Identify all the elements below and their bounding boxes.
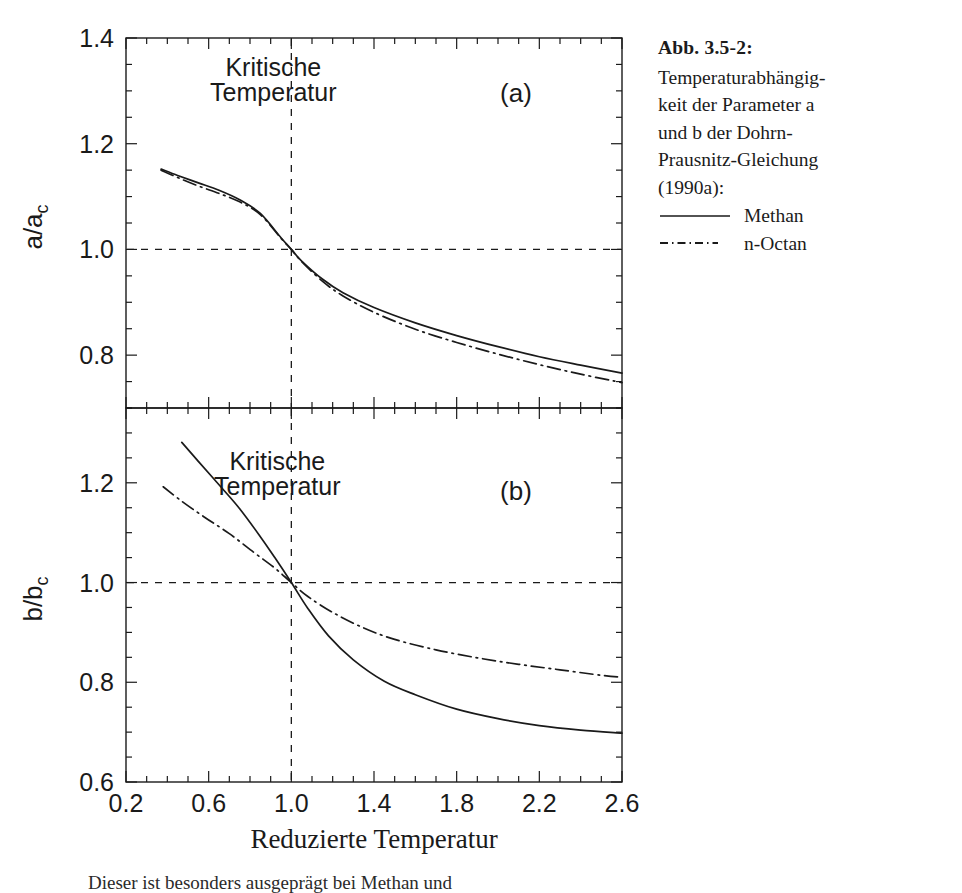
- figure-plot-area: 0.81.01.21.4a/acKritischeTemperatur(a)0.…: [0, 0, 640, 860]
- panel-label-a: (a): [500, 78, 532, 108]
- y-tick-label-a: 0.8: [79, 341, 114, 369]
- annotation-kritische-a: Kritische: [225, 53, 321, 81]
- y-tick-label-b: 0.8: [79, 668, 114, 696]
- caption-line: und b der Dohrn-: [658, 119, 950, 147]
- caption-title: Abb. 3.5-2:: [658, 34, 950, 62]
- annotation-temperatur-a: Temperatur: [210, 78, 336, 106]
- x-axis-label: Reduzierte Temperatur: [250, 824, 497, 854]
- x-tick-label: 2.6: [605, 789, 640, 817]
- caption-line: (1990a):: [658, 174, 950, 202]
- y-tick-label-a: 1.0: [79, 235, 114, 263]
- chart-legend: Methan n-Octan: [658, 202, 950, 257]
- legend-item-n-octan: n-Octan: [658, 230, 950, 258]
- series-curve-n-octan-a: [161, 170, 622, 382]
- legend-label-n-octan: n-Octan: [744, 230, 807, 258]
- caption-line: Prausnitz-Gleichung: [658, 146, 950, 174]
- dash-dot-line-icon: [658, 236, 732, 250]
- x-tick-label: 1.0: [274, 789, 309, 817]
- y-axis-label-b: b/bc: [18, 576, 52, 621]
- x-tick-label: 0.2: [109, 789, 144, 817]
- y-tick-label-b: 1.0: [79, 569, 114, 597]
- panel-label-b: (b): [500, 476, 532, 506]
- annotation-temperatur-b: Temperatur: [214, 472, 340, 500]
- y-tick-label-b: 1.2: [79, 469, 114, 497]
- legend-item-methan: Methan: [658, 202, 950, 230]
- y-tick-label-a: 1.4: [79, 24, 114, 52]
- svg-text:b/bc: b/bc: [18, 576, 52, 621]
- chart-svg: 0.81.01.21.4a/acKritischeTemperatur(a)0.…: [0, 0, 640, 860]
- x-tick-label: 1.4: [357, 789, 392, 817]
- caption-line: Temperaturabhängig-: [658, 64, 950, 92]
- plot-frame-a: [126, 38, 622, 408]
- caption-body: Temperaturabhängig- keit der Parameter a…: [658, 64, 950, 202]
- figure-caption: Abb. 3.5-2: Temperaturabhängig- keit der…: [658, 34, 950, 257]
- y-axis-label-a: a/ac: [18, 204, 52, 249]
- page-body-text: Dieser ist besonders ausgeprägt bei Meth…: [88, 872, 888, 893]
- x-tick-label: 1.8: [439, 789, 474, 817]
- series-curve-methan-a: [161, 169, 622, 373]
- x-tick-label: 2.2: [522, 789, 557, 817]
- annotation-kritische-b: Kritische: [229, 447, 325, 475]
- legend-label-methan: Methan: [744, 202, 804, 230]
- x-tick-label: 0.6: [191, 789, 226, 817]
- solid-line-icon: [658, 209, 732, 223]
- caption-line: keit der Parameter a: [658, 91, 950, 119]
- y-tick-label-a: 1.2: [79, 130, 114, 158]
- svg-text:a/ac: a/ac: [18, 204, 52, 249]
- figure-page: 0.81.01.21.4a/acKritischeTemperatur(a)0.…: [0, 0, 962, 893]
